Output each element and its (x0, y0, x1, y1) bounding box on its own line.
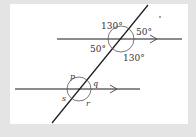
transversal-line (52, 5, 148, 123)
angle-label-s: s (62, 94, 66, 103)
angle-label-upper-bottom-left: 50° (90, 44, 106, 54)
angle-label-upper-top-right: 50° (136, 27, 152, 37)
angle-label-upper-bottom-right: 130° (123, 53, 145, 63)
angle-label-q: q (93, 79, 98, 88)
angle-label-upper-top-left: 130° (101, 21, 123, 31)
angle-label-r: r (86, 99, 91, 108)
angle-label-p: p (70, 72, 75, 81)
diagram: 130° 50° 50° 130° p q s r (0, 0, 196, 137)
stray-dot (159, 16, 161, 18)
